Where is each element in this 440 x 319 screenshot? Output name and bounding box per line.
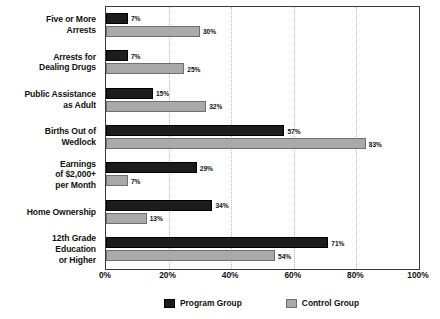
bar-value-label: 57%	[287, 127, 300, 134]
category-axis-labels: Five or MoreArrestsArrests forDealing Dr…	[0, 6, 100, 268]
category-label-line: Public Assistance	[0, 89, 96, 100]
category-label: Arrests forDealing Drugs	[0, 52, 96, 73]
category-label: Five or MoreArrests	[0, 14, 96, 35]
bar-value-label: 34%	[215, 202, 228, 209]
category-label-line: as Adult	[0, 100, 96, 111]
value-axis-tick-label: 80%	[347, 270, 364, 280]
category-label-line: Wedlock	[0, 137, 96, 148]
bar-value-label: 25%	[187, 65, 200, 72]
category-label: Public Assistanceas Adult	[0, 89, 96, 110]
category-label-line: Arrests	[0, 25, 96, 36]
value-axis-ticks: 0%20%40%60%80%100%	[105, 270, 418, 284]
category-label-line: or Higher	[0, 255, 96, 266]
bar-program-group: 7%	[106, 13, 128, 24]
chart-legend: Program GroupControl Group	[105, 295, 418, 311]
legend-swatch-icon	[164, 299, 175, 308]
category-label: Home Ownership	[0, 207, 96, 218]
bar-value-label: 29%	[200, 164, 213, 171]
category-label-line: of $2,000+	[0, 169, 96, 180]
legend-item-program[interactable]: Program Group	[164, 298, 242, 308]
bar-value-label: 7%	[131, 52, 141, 59]
bar-control-group: 13%	[106, 213, 147, 224]
category-label-line: per Month	[0, 180, 96, 191]
value-axis-tick-label: 100%	[407, 270, 428, 280]
bar-value-label: 7%	[131, 177, 141, 184]
bar-group: 7%30%	[106, 10, 419, 42]
bar-control-group: 25%	[106, 63, 184, 74]
category-label-line: Education	[0, 244, 96, 255]
bar-value-label: 13%	[150, 215, 163, 222]
bar-group: 15%32%	[106, 85, 419, 117]
bar-control-group: 83%	[106, 138, 366, 149]
category-label-line: Home Ownership	[0, 207, 96, 218]
bar-value-label: 32%	[209, 103, 222, 110]
category-label-line: Dealing Drugs	[0, 62, 96, 73]
category-label: Earningsof $2,000+per Month	[0, 159, 96, 191]
bar-control-group: 30%	[106, 26, 200, 37]
bar-program-group: 15%	[106, 88, 153, 99]
bar-value-label: 30%	[203, 28, 216, 35]
category-label-line: Five or More	[0, 14, 96, 25]
legend-item-control[interactable]: Control Group	[286, 298, 359, 308]
bar-value-label: 83%	[369, 140, 382, 147]
category-label-line: 12th Grade	[0, 233, 96, 244]
legend-label: Control Group	[302, 298, 359, 308]
bar-control-group: 54%	[106, 250, 275, 261]
bar-control-group: 7%	[106, 175, 128, 186]
bar-program-group: 7%	[106, 50, 128, 61]
category-label: Births Out ofWedlock	[0, 126, 96, 147]
bar-value-label: 71%	[331, 239, 344, 246]
bar-value-label: 15%	[156, 90, 169, 97]
category-label-line: Arrests for	[0, 52, 96, 63]
bar-program-group: 29%	[106, 162, 197, 173]
bar-program-group: 57%	[106, 125, 284, 136]
bar-control-group: 32%	[106, 101, 206, 112]
bar-group: 7%25%	[106, 47, 419, 79]
legend-label: Program Group	[180, 298, 242, 308]
bar-group: 29%7%	[106, 159, 419, 191]
value-axis-tick-label: 40%	[222, 270, 239, 280]
bar-chart-figure: Five or MoreArrestsArrests forDealing Dr…	[0, 0, 440, 319]
category-label-line: Births Out of	[0, 126, 96, 137]
bar-group: 57%83%	[106, 122, 419, 154]
category-label-line: Earnings	[0, 159, 96, 170]
value-axis-tick-label: 60%	[284, 270, 301, 280]
value-axis-tick-label: 0%	[99, 270, 111, 280]
legend-swatch-icon	[286, 299, 297, 308]
plot-area: 7%30%7%25%15%32%57%83%29%7%34%13%71%54%	[105, 6, 420, 270]
bar-program-group: 71%	[106, 237, 328, 248]
bar-program-group: 34%	[106, 200, 212, 211]
category-label: 12th GradeEducationor Higher	[0, 233, 96, 265]
bar-group: 71%54%	[106, 234, 419, 266]
bar-value-label: 7%	[131, 15, 141, 22]
bar-value-label: 54%	[278, 252, 291, 259]
bar-group: 34%13%	[106, 197, 419, 229]
value-axis-tick-label: 20%	[159, 270, 176, 280]
